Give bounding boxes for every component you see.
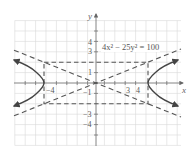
y-tick-neg3: −3 (83, 111, 92, 119)
axes (14, 14, 183, 146)
x-axis-label: x (182, 85, 186, 95)
hyperbola-plot (0, 0, 192, 159)
y-tick-neg4: −4 (83, 121, 92, 129)
x-tick-4: 4 (136, 87, 140, 95)
y-axis-label: y (88, 11, 92, 21)
asymptote-negative (14, 50, 181, 117)
y-tick-neg1: −1 (83, 89, 92, 97)
equation-text: 4x² − 25y² = 100 (102, 42, 159, 52)
x-tick-3: 3 (126, 87, 130, 95)
x-tick-neg4: −4 (46, 87, 55, 95)
asymptote-positive (14, 49, 181, 116)
y-tick-4: 4 (88, 39, 92, 47)
y-tick-3: 3 (88, 48, 92, 56)
equation-label: 4x² − 25y² = 100 (101, 42, 160, 52)
y-tick-1: 1 (88, 69, 92, 77)
